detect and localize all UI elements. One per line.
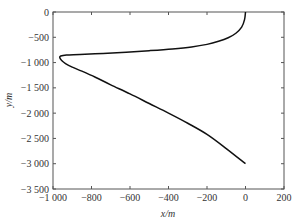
- x-tick-label: −800: [81, 192, 102, 203]
- plot-frame: [53, 12, 284, 189]
- axes-box: [53, 12, 284, 189]
- y-tick-label: −1 500: [21, 82, 49, 93]
- y-tick-label: −3 500: [21, 184, 49, 195]
- y-axis-ticks: 0−500−1 000−1 500−2 000−2 500−3 000−3 50…: [21, 7, 284, 195]
- x-tick-label: −600: [120, 192, 141, 203]
- y-tick-label: −2 500: [21, 133, 49, 144]
- x-axis-ticks: −1 000−800−600−400−2000200: [39, 12, 292, 203]
- x-tick-label: 0: [243, 192, 248, 203]
- y-tick-label: −3 000: [21, 158, 49, 169]
- data-series: [60, 12, 246, 164]
- y-axis-label: y/m: [3, 93, 14, 108]
- x-tick-label: 200: [277, 192, 292, 203]
- y-tick-label: −1 000: [21, 57, 49, 68]
- y-tick-label: −500: [28, 32, 49, 43]
- y-tick-label: −2 000: [21, 108, 49, 119]
- x-axis-label: x/m: [160, 208, 175, 219]
- series-line-trajectory: [60, 12, 246, 164]
- trajectory-chart: −1 000−800−600−400−2000200 0−500−1 000−1…: [0, 0, 299, 222]
- y-tick-label: 0: [44, 7, 49, 18]
- x-tick-label: −400: [158, 192, 179, 203]
- x-tick-label: −200: [197, 192, 218, 203]
